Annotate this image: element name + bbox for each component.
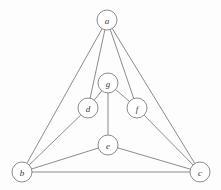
graph-node-circle-e [98,135,118,155]
graph-node-g: g [98,73,118,93]
graph-edge-b-d [29,115,81,165]
graph-canvas: agdfebc [0,0,221,190]
graph-node-f: f [127,98,147,118]
graph-node-circle-g [98,73,118,93]
graph-edge-f-g [116,90,130,102]
graph-node-c: c [190,162,210,182]
graph-node-circle-f [127,98,147,118]
graph-edge-d-g [94,91,102,100]
graph-node-circle-c [190,162,210,182]
graph-edge-a-c [112,29,195,164]
graph-node-a: a [97,10,117,30]
node-layer: agdfebc [12,10,210,182]
graph-node-circle-b [12,162,32,182]
graph-node-d: d [78,98,98,118]
graph-node-e: e [98,135,118,155]
graph-node-b: b [12,162,32,182]
graph-node-circle-d [78,98,98,118]
graph-figure: agdfebc [0,0,221,190]
graph-edge-b-e [32,148,99,169]
graph-node-circle-a [97,10,117,30]
